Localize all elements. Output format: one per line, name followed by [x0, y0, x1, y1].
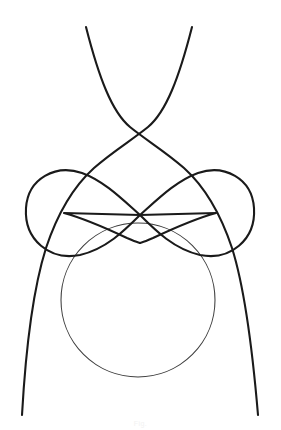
- bowtie-right-wing: [140, 213, 216, 243]
- descending-arc-right-to-left: [22, 27, 192, 415]
- bowtie-left-wing: [64, 213, 140, 243]
- descending-arc-left-to-right: [86, 27, 258, 415]
- circle-curve: [61, 223, 215, 377]
- curve-figure-canvas: [0, 0, 281, 430]
- figure-page: Fig.: [0, 0, 281, 430]
- figure-caption: Fig.: [0, 419, 281, 428]
